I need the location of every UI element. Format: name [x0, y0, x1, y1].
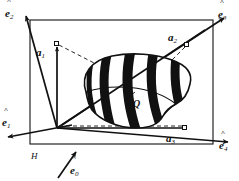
label-e2: ˄ e2 [5, 4, 13, 20]
label-point-q: Q [133, 94, 140, 110]
axis-e4 [57, 128, 228, 142]
plane-h-text: H [31, 151, 38, 161]
e4-hat: ˄ [221, 130, 225, 137]
e2-sub: 2 [10, 13, 14, 21]
a3-sub: 3 [172, 138, 176, 146]
axis-e1 [8, 125, 72, 137]
e3-sub: 3 [223, 14, 227, 22]
a2-base: a [168, 31, 174, 43]
label-e1: ˄ e1 [2, 113, 10, 129]
striped-body [84, 49, 190, 133]
e3-hat: ˄ [220, 0, 224, 6]
e1-sub: 1 [7, 122, 11, 130]
label-e0: ˄ e0 [70, 161, 78, 177]
label-e3: ˄ e3 [218, 5, 226, 21]
a3-base: a [166, 132, 172, 144]
e1-hat: ˄ [4, 107, 8, 114]
label-a3: a3 [166, 129, 175, 145]
label-a2: a2 [168, 28, 177, 44]
label-a1: a1 [36, 43, 45, 59]
e2-hat: ˄ [7, 0, 11, 5]
point-q-text: Q [133, 98, 140, 109]
a1-base: a [36, 46, 42, 58]
label-plane-h: H [31, 146, 38, 162]
axis-e2 [26, 16, 57, 128]
e0-hat: ˄ [72, 155, 76, 162]
figure-root: ˄ e2 ˄ e3 ˄ e1 ˄ e4 ˄ e0 a1 a2 a3 H Q [0, 0, 239, 181]
a2-sub: 2 [174, 37, 178, 45]
label-e4: ˄ e4 [219, 136, 227, 152]
e0-sub: 0 [75, 170, 79, 178]
e4-sub: 4 [224, 145, 228, 153]
a1-sub: 1 [42, 52, 46, 60]
